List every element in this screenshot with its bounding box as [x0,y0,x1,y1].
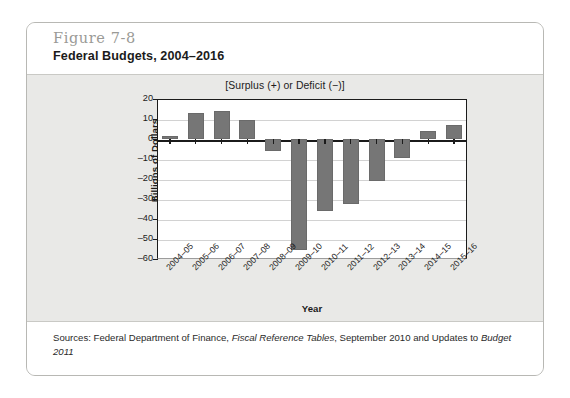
x-tick-mark [453,139,454,144]
bar [420,131,436,139]
x-tick-mark [376,139,377,144]
y-tick-label: –10 [127,154,153,163]
y-tick-label: 0 [127,134,153,143]
x-axis-title: Year [157,303,467,314]
source-middle: , September 2010 and Updates to [334,332,481,343]
bars-layer [157,99,467,259]
source-region: Sources: Federal Department of Finance, … [27,321,543,375]
bar [343,139,359,204]
bar [214,111,230,139]
y-tick-label: 10 [127,114,153,123]
x-tick-mark [169,139,170,144]
x-tick-mark [324,139,325,144]
plot-outer [157,99,467,259]
bar [317,139,333,211]
x-tick-mark [350,139,351,144]
bar [446,125,462,139]
x-tick-mark [428,139,429,144]
y-tick-label: –30 [127,194,153,203]
figure-number: Figure 7-8 [53,30,543,47]
bar [188,113,204,139]
x-tick-mark [221,139,222,144]
y-tick-label: –50 [127,234,153,243]
y-tick-label: –20 [127,174,153,183]
figure-header: Figure 7-8 Federal Budgets, 2004–2016 [27,23,543,75]
source-italic-1: Fiscal Reference Tables [232,332,335,343]
figure-card: Figure 7-8 Federal Budgets, 2004–2016 [S… [26,22,544,376]
bar [239,120,255,139]
bar [369,139,385,181]
source-text: Sources: Federal Department of Finance, … [53,331,513,359]
y-tick-label: 20 [127,94,153,103]
chart-region: [Surplus (+) or Deficit (−)] Billions of… [27,75,543,323]
y-axis: Billions of Dollars 20100–10–20–30–40–50… [123,99,153,259]
x-tick-mark [273,139,274,144]
x-tick-mark [195,139,196,144]
x-tick-mark [298,139,299,144]
bar [291,139,307,250]
y-tick-label: –60 [127,254,153,263]
source-prefix: Sources: Federal Department of Finance, [53,332,232,343]
x-tick-mark [247,139,248,144]
x-tick-mark [402,139,403,144]
y-tick-label: –40 [127,214,153,223]
figure-title: Federal Budgets, 2004–2016 [53,48,543,65]
x-axis-labels: 2004–052005–062006–072007–082008–092009–… [157,261,467,305]
chart-title: [Surplus (+) or Deficit (−)] [27,80,543,91]
